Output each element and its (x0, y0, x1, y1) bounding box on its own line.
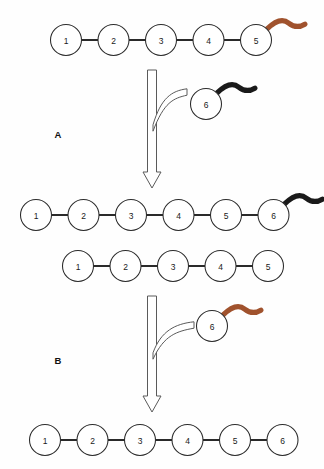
chain-elongation-diagram: 123456123456123456123456 A B (0, 0, 324, 469)
chain-node-label: 4 (185, 436, 190, 446)
chain-node-label: 6 (271, 211, 276, 221)
chain-node-label: 2 (123, 262, 128, 272)
chain-node-label: 1 (76, 262, 81, 272)
chain-node-label: 1 (64, 36, 69, 46)
chain-node-label: 2 (90, 436, 95, 446)
chain-node-label: 5 (254, 36, 259, 46)
chain-node-label: 4 (206, 36, 211, 46)
figure-root: 123456123456123456123456 A B (0, 0, 324, 469)
chain-node-label: 4 (218, 262, 223, 272)
chain-node-label: 1 (34, 211, 39, 221)
chain-node-label: 4 (176, 211, 181, 221)
chain-node-label: 6 (280, 436, 285, 446)
chain-node-label: 6 (210, 322, 215, 332)
chain-node-label: 3 (138, 436, 143, 446)
panel-label-b: B (55, 355, 62, 366)
chain-node-label: 5 (224, 211, 229, 221)
chain-node-label: 3 (171, 262, 176, 272)
chain-node-label: 5 (233, 436, 238, 446)
chain-node-label: 3 (159, 36, 164, 46)
chain-node-label: 3 (129, 211, 134, 221)
diagram-background (0, 0, 324, 469)
chain-node-label: 5 (266, 262, 271, 272)
chain-node-label: 2 (81, 211, 86, 221)
chain-node-label: 1 (43, 436, 48, 446)
chain-node-label: 6 (204, 100, 209, 110)
panel-label-a: A (55, 129, 62, 140)
chain-node-label: 2 (111, 36, 116, 46)
